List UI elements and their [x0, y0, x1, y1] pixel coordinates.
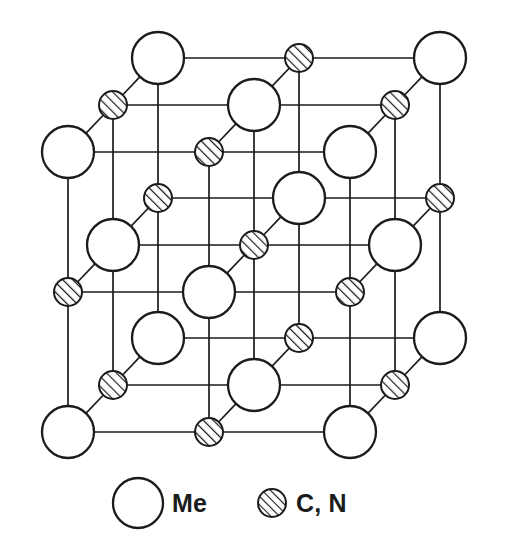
atom-me	[183, 266, 235, 318]
atom-cn	[144, 184, 172, 212]
lattice-bond	[122, 76, 141, 96]
lattice-bond	[218, 123, 237, 143]
atom-cn	[426, 184, 454, 212]
lattice-bond	[85, 394, 104, 414]
atom-me	[42, 126, 94, 178]
atom-me	[87, 219, 139, 271]
atom-cn	[99, 371, 127, 399]
atom-cn	[240, 231, 268, 259]
lattice-bond	[271, 67, 290, 87]
atom-me	[369, 219, 421, 271]
lattice-bond	[130, 207, 149, 227]
atom-me	[324, 126, 376, 178]
atom-cn	[381, 371, 409, 399]
atom-cn	[285, 44, 313, 72]
atom-me	[132, 312, 184, 364]
legend-label-cn: C, N	[296, 489, 347, 517]
legend-marker-cn	[258, 489, 286, 517]
atom-cn	[195, 418, 223, 446]
lattice-bond	[263, 216, 282, 236]
lattice-bond	[367, 114, 386, 134]
atom-cn	[381, 91, 409, 119]
atom-me	[132, 32, 184, 84]
atom-me	[228, 359, 280, 411]
lattice-figure: MeC, N	[0, 0, 510, 556]
atom-me	[42, 406, 94, 458]
atom-me	[324, 406, 376, 458]
atom-cn	[99, 91, 127, 119]
lattice-bond	[367, 394, 386, 414]
lattice-bond	[85, 114, 104, 134]
atom-cn	[336, 278, 364, 306]
lattice-bond	[359, 263, 378, 283]
legend: MeC, N	[113, 478, 347, 528]
atom-me	[273, 172, 325, 224]
lattice-bond	[271, 347, 290, 367]
lattice-bond	[404, 356, 423, 376]
atom-me	[228, 79, 280, 131]
atom-cn	[54, 278, 82, 306]
lattice-diagram: MeC, N	[0, 0, 510, 556]
legend-marker-me	[113, 478, 163, 528]
atom-cn	[195, 138, 223, 166]
atom-cn	[285, 324, 313, 352]
lattice-atoms	[42, 32, 466, 458]
atom-me	[414, 312, 466, 364]
lattice-bond	[404, 76, 423, 96]
legend-label-me: Me	[172, 489, 207, 517]
lattice-bond	[122, 356, 141, 376]
lattice-bond	[77, 263, 96, 283]
atom-me	[414, 32, 466, 84]
lattice-bond	[218, 403, 237, 423]
lattice-bond	[412, 207, 431, 227]
lattice-bond	[226, 254, 245, 274]
